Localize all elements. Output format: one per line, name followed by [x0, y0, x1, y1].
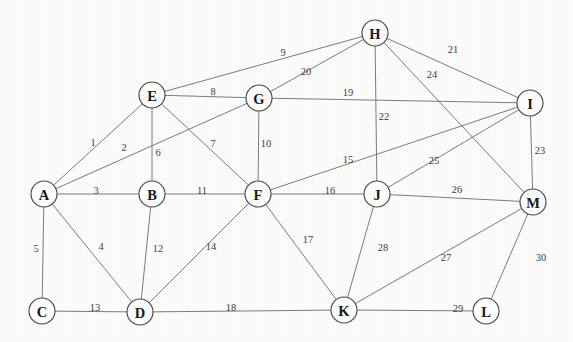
graph-node-m[interactable]: M: [520, 189, 546, 215]
edge-weight-label: 4: [98, 241, 104, 252]
edge-weight-label: 25: [429, 155, 440, 166]
graph-node-d[interactable]: D: [127, 299, 153, 325]
graph-node-a[interactable]: A: [31, 181, 57, 207]
edge-weight-label: 12: [153, 243, 164, 254]
node-label: B: [147, 187, 157, 203]
edge-weight-label: 14: [206, 241, 217, 252]
edge-weight-label: 29: [453, 303, 464, 314]
edge-weight-label: 13: [90, 302, 101, 313]
graph-edge-k-m: [355, 208, 521, 303]
graph-node-b[interactable]: B: [139, 181, 165, 207]
edge-weight-label: 30: [536, 252, 547, 263]
node-label: F: [254, 187, 263, 203]
edges-layer: [42, 36, 532, 311]
node-label: J: [373, 187, 380, 203]
graph-node-j[interactable]: J: [364, 181, 390, 207]
edge-weight-label: 9: [280, 47, 285, 58]
graph-edge-e-h: [165, 36, 363, 91]
edge-weight-label: 3: [93, 185, 98, 196]
node-label: G: [253, 91, 264, 107]
graph-node-e[interactable]: E: [139, 82, 165, 108]
edge-weight-label: 6: [155, 147, 160, 158]
edge-labels-layer: 1234567891011121314151617181920212223242…: [33, 44, 546, 314]
graph-diagram: 1234567891011121314151617181920212223242…: [0, 0, 573, 342]
graph-node-k[interactable]: K: [331, 297, 357, 323]
graph-edge-d-k: [153, 310, 331, 312]
graph-edge-f-i: [270, 107, 517, 190]
graph-edge-f-d: [149, 203, 249, 303]
graph-edge-a-c: [42, 207, 44, 298]
edge-weight-label: 15: [343, 154, 354, 165]
graph-edge-a-d: [52, 204, 132, 302]
edge-weight-label: 8: [210, 86, 215, 97]
graph-edge-b-d: [141, 207, 150, 299]
graph-edge-h-j: [375, 46, 377, 181]
graph-edge-a-g: [56, 103, 247, 188]
graph-edge-j-k: [348, 207, 374, 298]
edge-weight-label: 11: [197, 185, 207, 196]
edge-weight-label: 18: [226, 302, 237, 313]
graph-edge-j-m: [390, 195, 520, 202]
node-label: K: [338, 303, 350, 319]
node-label: D: [135, 305, 145, 321]
graph-edge-h-m: [384, 42, 524, 192]
graph-edge-m-l: [491, 214, 528, 299]
edge-weight-label: 7: [210, 138, 215, 149]
edge-weight-label: 27: [441, 252, 452, 263]
edge-weight-label: 20: [301, 66, 312, 77]
graph-edge-j-i: [388, 110, 519, 188]
graph-node-f[interactable]: F: [245, 181, 271, 207]
edge-weight-label: 5: [33, 243, 38, 254]
node-label: E: [147, 88, 157, 104]
edge-weight-label: 10: [261, 138, 272, 149]
graph-edge-g-i: [272, 98, 517, 103]
graph-node-h[interactable]: H: [362, 20, 388, 46]
edge-weight-label: 26: [452, 184, 463, 195]
graph-node-i[interactable]: I: [517, 90, 543, 116]
node-label: I: [527, 96, 533, 112]
edge-weight-label: 22: [379, 111, 390, 122]
node-label: M: [526, 195, 540, 211]
graph-edge-f-k: [266, 204, 337, 299]
graph-edge-e-g: [165, 95, 246, 97]
edge-weight-label: 24: [427, 69, 438, 80]
graph-edge-g-f: [258, 111, 259, 181]
edge-weight-label: 17: [303, 234, 314, 245]
node-label: H: [369, 26, 381, 42]
graph-node-g[interactable]: G: [246, 85, 272, 111]
node-label: C: [37, 304, 47, 320]
edge-weight-label: 28: [378, 242, 389, 253]
edge-weight-label: 1: [90, 137, 95, 148]
node-label: L: [481, 304, 491, 320]
edge-weight-label: 19: [343, 87, 354, 98]
graph-canvas: 1234567891011121314151617181920212223242…: [0, 0, 573, 342]
edge-weight-label: 16: [325, 185, 336, 196]
graph-node-l[interactable]: L: [473, 298, 499, 324]
graph-edge-i-m: [530, 116, 532, 189]
graph-node-c[interactable]: C: [29, 298, 55, 324]
node-label: A: [39, 187, 50, 203]
edge-weight-label: 21: [448, 44, 459, 55]
edge-weight-label: 2: [121, 142, 126, 153]
nodes-layer: ABCDEFGHIJKLM: [29, 20, 546, 325]
graph-edge-e-f: [162, 104, 249, 185]
graph-edge-a-e: [54, 104, 143, 185]
edge-weight-label: 23: [535, 145, 546, 156]
